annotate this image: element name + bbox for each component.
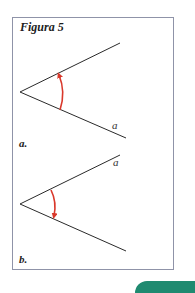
rotation-arrow-icon <box>59 75 63 110</box>
rotation-arrow-icon <box>51 190 55 216</box>
panel-label-a: a. <box>19 137 27 149</box>
angle-b <box>20 155 126 251</box>
accent-tab <box>135 281 195 293</box>
panel-label-b: b. <box>19 253 27 265</box>
ray-label-a: a <box>112 119 118 131</box>
angle-a <box>20 43 126 138</box>
ray-label-b: a <box>113 156 119 168</box>
